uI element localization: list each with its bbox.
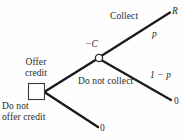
label-do-not-offer-credit-line2: offer credit (2, 112, 46, 123)
label-probability-p: p (152, 29, 157, 40)
label-offer-credit-line1: Offer (14, 57, 58, 68)
terminal-payoff-no-offer: 0 (100, 123, 105, 133)
label-probability-one-minus-p: 1 − p (150, 70, 171, 81)
terminal-payoff-collect: R (172, 6, 178, 16)
label-cost-c: −C (85, 39, 98, 50)
edge-do-not-offer-credit (45, 93, 98, 128)
label-offer-credit-line2: credit (14, 68, 58, 79)
label-do-not-offer-credit: Do not offer credit (2, 101, 46, 122)
label-do-not-offer-credit-line1: Do not (2, 101, 46, 112)
label-do-not-collect: Do not collect (78, 76, 133, 87)
chance-node-circle (95, 54, 102, 61)
decision-node-square (29, 84, 45, 100)
label-offer-credit: Offer credit (14, 57, 58, 78)
terminal-payoff-do-not-collect: 0 (174, 96, 179, 106)
label-collect: Collect (110, 11, 138, 22)
decision-tree-diagram: Offer credit Do not offer credit −C Coll… (0, 0, 189, 140)
